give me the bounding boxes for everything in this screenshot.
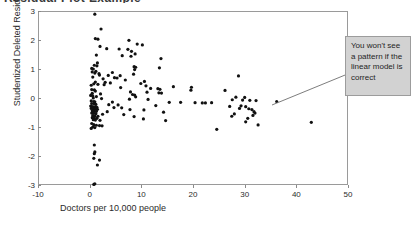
data-point	[246, 117, 249, 120]
data-point	[134, 95, 137, 98]
data-point	[129, 90, 132, 93]
x-tick-mark	[245, 185, 246, 188]
data-point	[91, 76, 94, 79]
data-point	[107, 74, 110, 77]
y-tick-mark	[38, 127, 41, 128]
data-point	[116, 103, 119, 106]
data-point	[223, 89, 226, 92]
data-point	[179, 101, 182, 104]
data-point	[93, 126, 96, 129]
data-point	[146, 98, 149, 101]
data-point	[96, 61, 99, 64]
data-point	[95, 95, 98, 98]
data-point	[93, 143, 96, 146]
y-tick-mark	[38, 156, 41, 157]
x-tick-label: -10	[32, 190, 44, 199]
data-point	[105, 47, 108, 50]
data-point	[93, 71, 96, 74]
data-point	[96, 163, 99, 166]
data-point	[128, 108, 131, 111]
data-point	[164, 119, 167, 122]
data-point	[172, 85, 175, 88]
data-point	[136, 42, 139, 45]
data-point	[122, 113, 125, 116]
data-point	[111, 100, 114, 103]
data-point	[244, 120, 247, 123]
figure-title-remnant: Residual Plot Example	[4, 0, 244, 3]
y-tick-mark	[38, 185, 41, 186]
data-point	[310, 121, 313, 124]
data-point	[134, 52, 137, 55]
data-point	[119, 74, 122, 77]
data-point	[130, 50, 133, 53]
data-point	[94, 118, 97, 121]
data-point	[95, 53, 98, 56]
data-point	[201, 101, 204, 104]
data-point	[115, 76, 118, 79]
data-point	[160, 91, 163, 94]
y-tick-label: 2	[22, 36, 35, 45]
data-point	[96, 83, 99, 86]
data-point	[238, 107, 241, 110]
x-tick-mark	[193, 185, 194, 188]
callout-annotation-box: You won't see a pattern if the linear mo…	[345, 36, 411, 96]
data-point	[228, 105, 231, 108]
data-point	[90, 127, 93, 130]
y-tick-mark	[38, 69, 41, 70]
data-point	[100, 124, 103, 127]
data-point	[234, 96, 237, 99]
data-point	[133, 68, 136, 71]
y-axis-title: Studentized Deleted Residual	[12, 0, 22, 122]
data-point	[96, 38, 99, 41]
data-point	[215, 128, 218, 131]
data-point	[251, 114, 254, 117]
data-point	[119, 86, 122, 89]
data-point	[189, 89, 192, 92]
data-point	[149, 87, 152, 90]
x-tick-mark	[348, 185, 349, 188]
data-point	[193, 101, 196, 104]
data-point	[254, 99, 257, 102]
data-point	[142, 117, 145, 120]
data-point	[244, 105, 247, 108]
data-point	[98, 73, 101, 76]
data-point	[93, 152, 96, 155]
data-point	[127, 39, 130, 42]
data-point	[109, 81, 112, 84]
data-point	[142, 108, 145, 111]
y-tick-label: -2	[22, 152, 35, 161]
data-point	[107, 103, 110, 106]
data-point	[100, 97, 103, 100]
data-point	[230, 115, 233, 118]
data-point	[101, 113, 104, 116]
data-point	[129, 55, 132, 58]
data-point	[145, 91, 148, 94]
data-point	[190, 86, 193, 89]
data-point	[93, 13, 96, 16]
x-tick-label: 20	[189, 190, 198, 199]
data-point	[106, 110, 109, 113]
data-point	[158, 88, 161, 91]
data-point	[128, 98, 131, 101]
data-point	[144, 84, 147, 87]
data-point	[139, 82, 142, 85]
data-point	[92, 96, 95, 99]
data-point	[159, 57, 162, 60]
x-tick-label: 0	[87, 190, 91, 199]
data-point	[241, 98, 244, 101]
x-tick-mark	[90, 185, 91, 188]
y-tick-mark	[38, 98, 41, 99]
data-point	[120, 106, 123, 109]
data-point	[103, 83, 106, 86]
data-point	[98, 45, 101, 48]
data-point	[248, 99, 251, 102]
data-point	[275, 100, 278, 103]
data-point	[243, 96, 246, 99]
y-tick-mark	[38, 40, 41, 41]
data-point	[233, 112, 236, 115]
data-point	[98, 158, 101, 161]
data-point	[133, 115, 136, 118]
x-tick-label: 30	[240, 190, 249, 199]
data-point	[94, 89, 97, 92]
data-point	[112, 106, 115, 109]
